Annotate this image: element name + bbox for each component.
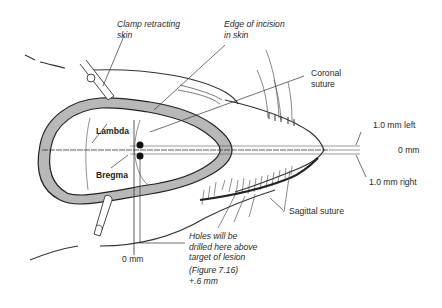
label-clamp-retracting-skin: Clamp retracting skin — [117, 19, 180, 40]
label-holes-drilled: Holes will be drilled here above target … — [189, 231, 257, 263]
upper-hair-strands — [257, 50, 292, 122]
clamp-upper — [80, 60, 114, 100]
label-lambda: Lambda — [96, 126, 129, 137]
label-coronal-suture: Coronal suture — [311, 68, 341, 89]
drill-hole-left — [137, 142, 144, 149]
label-1mm-right: 1.0 mm right — [369, 177, 417, 188]
skull-surgery-diagram: Clamp retracting skin Edge of incision i… — [0, 0, 442, 308]
sagittal-suture-lines — [218, 170, 290, 228]
label-0mm-bottom: 0 mm — [122, 254, 143, 265]
coronal-ticks — [269, 113, 294, 126]
drill-hole-right — [137, 153, 144, 160]
label-figure-reference: (Figure 7.16) +.6 mm — [189, 265, 238, 286]
label-bregma: Bregma — [96, 170, 128, 181]
label-sagittal-suture: Sagittal suture — [289, 206, 344, 217]
label-edge-of-incision: Edge of incision in skin — [224, 19, 285, 40]
label-1mm-left: 1.0 mm left — [373, 120, 416, 131]
label-0mm-right: 0 mm — [398, 145, 419, 156]
